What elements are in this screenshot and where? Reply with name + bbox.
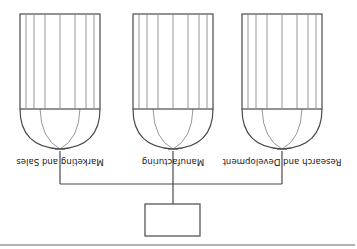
label-manufacturing: Manufacturing [142, 157, 204, 167]
column-marketing [20, 14, 100, 149]
root-box [145, 204, 200, 236]
column-manufacturing [133, 14, 213, 149]
column-rnd [242, 14, 322, 149]
label-rnd: Research and Development [222, 157, 342, 167]
org-diagram: Research and Development Manufacturing M… [0, 0, 357, 249]
diagram-canvas: Research and Development Manufacturing M… [0, 0, 357, 249]
label-marketing: Marketing and Sales [16, 157, 104, 167]
